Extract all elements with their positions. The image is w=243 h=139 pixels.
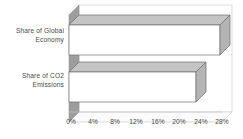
x-tick-label-16: 16% [147,118,169,125]
category-label-line-1: Share of CO2 [22,72,64,79]
bar-0-front-face [69,25,220,55]
category-label-line-1: Share of Global [16,27,64,34]
x-tick-label-20: 20% [168,118,190,125]
x-tick-label-0: 0% [60,118,82,125]
category-label-share-of-global-economy: Share of Global Economy [2,27,64,44]
category-label-line-2: Emissions [33,81,64,88]
category-label-share-of-co2-emissions: Share of CO2 Emissions [2,72,64,89]
x-tick-label-8: 8% [104,118,126,125]
bar-0-top-face [69,15,230,25]
chart-container: Share of Global Economy Share of CO2 Emi… [0,0,243,139]
bar-1-front-face [69,72,196,102]
x-tick-label-28: 28% [211,118,233,125]
x-tick-label-24: 24% [190,118,212,125]
x-tick-label-12: 12% [125,118,147,125]
bar-1-top-face [69,62,206,72]
bar-share-of-co2-emissions[interactable] [69,62,206,102]
category-label-line-2: Economy [35,36,64,43]
x-tick-label-4: 4% [82,118,104,125]
bar-share-of-global-economy[interactable] [69,15,230,55]
